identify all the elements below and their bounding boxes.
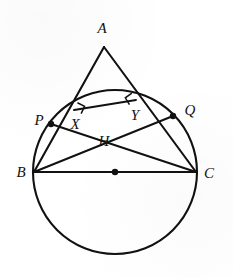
right-angle-marker-y (125, 93, 132, 104)
point-dot-o (112, 169, 118, 175)
segment-ac (104, 47, 196, 172)
segment-group (34, 47, 196, 172)
label-point-h: H (98, 133, 111, 149)
label-point-a: A (96, 20, 107, 36)
label-point-b: B (16, 164, 25, 180)
label-point-x: X (69, 116, 80, 132)
label-point-c: C (204, 165, 215, 181)
segment-ab (34, 47, 104, 172)
label-point-y: Y (131, 107, 141, 123)
point-dot-q (170, 113, 176, 119)
geometry-figure: A B C P Q X Y H (0, 0, 233, 278)
label-point-p: P (33, 112, 43, 128)
label-point-q: Q (185, 102, 196, 118)
point-dot-p (48, 121, 54, 127)
